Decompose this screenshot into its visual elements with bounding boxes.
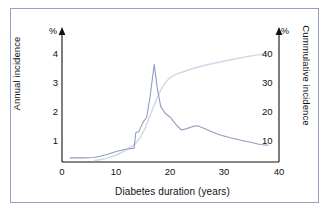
left-tick-label-1: 1 <box>44 135 58 146</box>
right-tick-label-20: 20 <box>262 106 277 117</box>
right-tick-label-40: 40 <box>262 48 277 59</box>
x-tick-label-30: 30 <box>212 166 236 177</box>
left-axis-title: Annual incidence <box>11 34 22 114</box>
figure-container: % % 1 2 3 4 10 20 30 40 0 10 20 30 40 An… <box>0 0 329 211</box>
left-tick-label-2: 2 <box>44 106 58 117</box>
x-tick-label-0: 0 <box>50 166 74 177</box>
left-tick-label-4: 4 <box>44 48 58 59</box>
left-axis <box>59 27 66 162</box>
left-axis-unit: % <box>49 26 57 36</box>
right-tick-label-10: 10 <box>262 135 277 146</box>
x-tick-label-40: 40 <box>267 166 291 177</box>
x-axis-title: Diabetes duration (years) <box>60 186 285 197</box>
left-tick-label-3: 3 <box>44 77 58 88</box>
x-tick-label-10: 10 <box>104 166 128 177</box>
x-tick-label-20: 20 <box>158 166 182 177</box>
series-line-cummulative-incidence <box>95 53 269 160</box>
right-axis-title: Cummulative incidence <box>301 22 312 130</box>
right-axis-unit: % <box>281 26 289 36</box>
right-tick-label-30: 30 <box>262 77 277 88</box>
plot-area: % % 1 2 3 4 10 20 30 40 0 10 20 30 40 An… <box>0 0 329 211</box>
